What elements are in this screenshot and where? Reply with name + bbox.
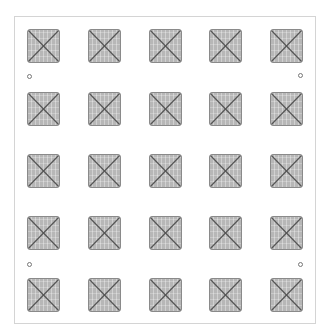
x-cross-icon [271,93,302,125]
hole-top-right [298,73,303,78]
x-cross-icon [150,155,181,187]
tile-r3-c4 [209,154,242,188]
tile-r3-c3 [149,154,182,188]
tile-r2-c3 [149,92,182,126]
x-cross-icon [271,279,302,311]
x-cross-icon [150,93,181,125]
tile-r4-c1 [27,216,60,250]
x-cross-icon [271,155,302,187]
x-cross-icon [89,155,120,187]
tile-r4-c5 [270,216,303,250]
x-cross-icon [28,155,59,187]
x-cross-icon [89,30,120,62]
tile-r5-c4 [209,278,242,312]
tile-r3-c5 [270,154,303,188]
tile-r2-c2 [88,92,121,126]
tile-r1-c2 [88,29,121,63]
x-cross-icon [150,217,181,249]
x-cross-icon [28,93,59,125]
x-cross-icon [89,93,120,125]
tile-r4-c4 [209,216,242,250]
tile-r5-c3 [149,278,182,312]
tile-r4-c3 [149,216,182,250]
tile-r5-c5 [270,278,303,312]
tile-r2-c4 [209,92,242,126]
tile-r1-c1 [27,29,60,63]
tile-r1-c4 [209,29,242,63]
x-cross-icon [28,217,59,249]
x-cross-icon [28,30,59,62]
x-cross-icon [210,30,241,62]
x-cross-icon [210,155,241,187]
tile-r2-c5 [270,92,303,126]
tile-r1-c3 [149,29,182,63]
tile-r2-c1 [27,92,60,126]
x-cross-icon [89,279,120,311]
tile-r5-c2 [88,278,121,312]
x-cross-icon [210,217,241,249]
tile-r1-c5 [270,29,303,63]
x-cross-icon [210,93,241,125]
hole-bottom-left [27,262,32,267]
hole-bottom-right [298,262,303,267]
x-cross-icon [271,217,302,249]
tile-r3-c1 [27,154,60,188]
x-cross-icon [150,30,181,62]
hole-top-left [27,74,32,79]
x-cross-icon [210,279,241,311]
x-cross-icon [28,279,59,311]
x-cross-icon [150,279,181,311]
tile-r5-c1 [27,278,60,312]
x-cross-icon [271,30,302,62]
tile-r4-c2 [88,216,121,250]
x-cross-icon [89,217,120,249]
tile-r3-c2 [88,154,121,188]
